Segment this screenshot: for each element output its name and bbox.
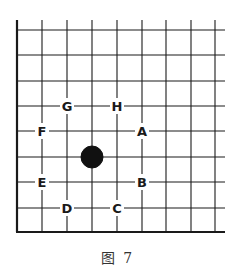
point-label-b: B bbox=[137, 175, 147, 190]
point-label-d: D bbox=[62, 201, 73, 216]
go-board: GHFAEBDC bbox=[0, 0, 235, 240]
point-label-e: E bbox=[38, 175, 47, 190]
point-label-h: H bbox=[112, 99, 123, 114]
point-label-a: A bbox=[137, 124, 147, 139]
point-label-f: F bbox=[38, 124, 47, 139]
stones-layer bbox=[81, 146, 103, 168]
point-label-c: C bbox=[112, 201, 122, 216]
black-stone bbox=[81, 146, 103, 168]
figure-caption: 图 7 bbox=[0, 247, 235, 267]
point-label-g: G bbox=[62, 99, 73, 114]
